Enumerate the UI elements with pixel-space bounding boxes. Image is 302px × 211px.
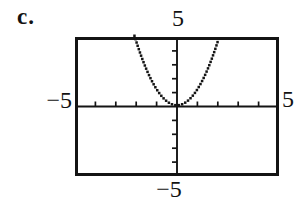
curve-dot [215, 44, 218, 47]
curve-dot [149, 77, 152, 80]
curve-dot [174, 104, 177, 107]
axis-label-bottom: −5 [145, 177, 193, 201]
curve-dot [154, 86, 157, 89]
curve-dot [146, 71, 149, 74]
curve-dot [156, 89, 159, 92]
figure: c. 5 −5 5 −5 [0, 0, 302, 211]
curve-dot [133, 35, 136, 38]
axis-label-right: 5 [282, 87, 294, 111]
curve-dot [160, 95, 163, 98]
curve-dot [139, 51, 142, 54]
curve-dot [148, 74, 151, 77]
curve-dot [134, 38, 137, 41]
curve-dot [136, 45, 139, 48]
curve-dot [168, 101, 171, 104]
curve-dot [142, 61, 145, 64]
curve-dot [165, 99, 168, 102]
curve-dot [145, 67, 148, 70]
curve-dot [207, 67, 210, 70]
curve-dot [202, 77, 205, 80]
curve-dot [208, 64, 211, 66]
curve-dot [187, 99, 190, 102]
curve-dot [209, 61, 212, 64]
curve-dot [152, 83, 155, 86]
curve-dot [196, 89, 199, 92]
curve-dot [138, 48, 141, 51]
curve-dot [201, 80, 204, 83]
axis-label-left: −5 [26, 88, 72, 112]
curve-dot [199, 83, 202, 86]
curve-dot [181, 103, 184, 106]
curve-dot [158, 92, 161, 95]
curve-dot [212, 54, 215, 57]
curve-dot [192, 94, 195, 97]
curve-dot [135, 41, 138, 44]
axis-label-top: 5 [163, 6, 193, 30]
curve-dot [204, 74, 207, 77]
curve-dot [171, 103, 174, 106]
curve-dot [178, 104, 181, 107]
curve-dot [141, 58, 144, 61]
curve-dot [217, 38, 220, 41]
curve-dot [214, 48, 217, 51]
curve-dot [211, 57, 214, 60]
curve-dot [184, 101, 187, 104]
curve-dot [213, 51, 216, 54]
curve-dot [198, 86, 201, 89]
curve-dot [216, 41, 219, 44]
curve-dot [162, 97, 165, 100]
curve-dot [194, 92, 197, 95]
curve-dot [144, 64, 147, 67]
curve-dot [189, 97, 192, 100]
curve-dot [151, 80, 154, 83]
curve-dot [205, 70, 208, 73]
curve-dot [140, 54, 143, 57]
